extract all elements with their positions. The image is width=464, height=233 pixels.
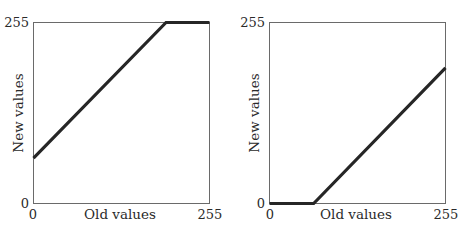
y-tick-max: 255 xyxy=(240,15,265,30)
y-axis-label: New values xyxy=(10,73,26,152)
plot-frame xyxy=(270,23,446,204)
plot-frame xyxy=(34,23,210,204)
y-axis-label: New values xyxy=(246,73,262,152)
chart-left: 255 0 0 255 Old values New values xyxy=(4,15,222,222)
y-tick-max: 255 xyxy=(4,15,29,30)
x-tick-max: 255 xyxy=(434,207,459,222)
x-axis-label: Old values xyxy=(320,206,392,222)
series-line-mapping xyxy=(270,68,446,204)
series-line-mapping xyxy=(34,23,210,159)
y-tick-min: 0 xyxy=(21,196,29,211)
x-tick-min: 0 xyxy=(266,207,274,222)
x-tick-max: 255 xyxy=(198,207,223,222)
chart-right: 255 0 0 255 Old values New values xyxy=(240,15,458,222)
figure: 255 0 0 255 Old values New values 255 0 … xyxy=(0,0,464,233)
x-axis-label: Old values xyxy=(84,206,156,222)
x-tick-min: 0 xyxy=(29,207,37,222)
y-tick-min: 0 xyxy=(257,196,265,211)
